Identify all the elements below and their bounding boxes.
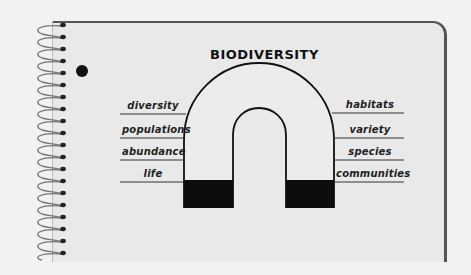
label-abundance: abundance [122, 146, 184, 157]
label-diversity: diversity [122, 100, 184, 111]
label-habitats: habitats [338, 99, 402, 110]
label-species: species [338, 146, 402, 157]
label-populations: populations [122, 124, 184, 135]
label-life: life [122, 168, 184, 179]
left-pole [184, 180, 233, 208]
label-variety: variety [338, 124, 402, 135]
horseshoe-magnet-diagram [0, 0, 471, 275]
right-pole [286, 180, 334, 208]
label-communities: communities [336, 168, 404, 179]
diagram-title: BIODIVERSITY [210, 47, 310, 62]
